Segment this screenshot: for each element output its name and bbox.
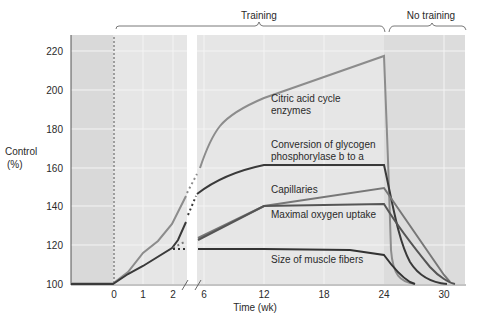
svg-text:6: 6	[201, 289, 207, 300]
label-capillaries: Capillaries	[271, 184, 318, 195]
no-training-bracket	[389, 23, 466, 32]
training-label: Training	[241, 10, 277, 21]
svg-text:220: 220	[46, 46, 63, 57]
label-citric-2: enzymes	[271, 105, 311, 116]
svg-text:30: 30	[438, 289, 450, 300]
svg-text:100: 100	[46, 279, 63, 290]
svg-text:24: 24	[378, 289, 390, 300]
svg-text:12: 12	[258, 289, 270, 300]
svg-text:18: 18	[318, 289, 330, 300]
label-citric-1: Citric acid cycle	[271, 93, 341, 104]
label-glycogen-1: Conversion of glycogen	[271, 139, 376, 150]
x-axis-label: Time (wk)	[233, 302, 277, 313]
pretraining-region	[71, 35, 113, 284]
svg-text:140: 140	[46, 201, 63, 212]
label-fibers: Size of muscle fibers	[271, 254, 363, 265]
svg-text:0: 0	[111, 289, 117, 300]
svg-text:2: 2	[170, 289, 176, 300]
chart: Training No training Control (%) 100 120…	[0, 0, 479, 321]
svg-text:200: 200	[46, 85, 63, 96]
x-tick-labels: 0 1 2 6 12 18 24 30	[111, 289, 450, 300]
label-glycogen-2: phosphorylase b to a	[271, 151, 364, 162]
svg-text:160: 160	[46, 163, 63, 174]
no-training-label: No training	[407, 10, 455, 21]
y-axis-label: Control	[5, 146, 37, 157]
axis-break-band	[187, 35, 197, 284]
training-bracket	[116, 22, 385, 32]
y-axis-unit: (%)	[7, 159, 23, 170]
svg-text:1: 1	[140, 289, 146, 300]
y-tick-labels: 100 120 140 160 180 200 220	[46, 46, 63, 290]
label-vo2: Maximal oxygen uptake	[271, 209, 376, 220]
svg-text:120: 120	[46, 240, 63, 251]
svg-text:180: 180	[46, 124, 63, 135]
